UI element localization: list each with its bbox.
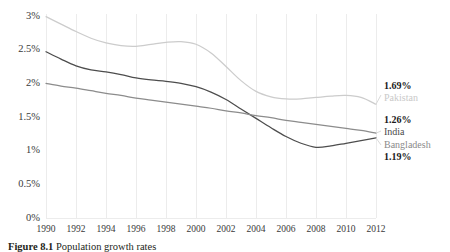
y-tick-label-0-5pct: 0.5% (18, 179, 40, 190)
figure-caption-title: Population growth rates (56, 241, 156, 252)
y-tick-label-1pct: 1% (26, 145, 40, 156)
series-line-india (46, 83, 376, 133)
x-tick-label-2012: 2012 (358, 225, 394, 235)
series-name-bangladesh: Bangladesh (384, 140, 431, 151)
line-chart-plot (0, 0, 450, 252)
y-tick-label-2-5pct: 2.5% (18, 44, 40, 55)
y-tick-label-2pct: 2% (26, 78, 40, 89)
end-value-bangladesh: 1.19% (384, 152, 412, 163)
figure-caption-number: Figure 8.1 (8, 241, 53, 252)
leader-lines-group (376, 95, 381, 145)
series-name-india: India (384, 127, 405, 138)
y-tick-label-0pct: 0% (26, 213, 40, 224)
end-value-pakistan: 1.69% (384, 81, 412, 92)
leader-line-pakistan (376, 95, 381, 104)
series-lines-group (46, 17, 376, 148)
figure-caption: Figure 8.1 Population growth rates (8, 241, 156, 252)
end-value-india: 1.26% (384, 115, 412, 126)
series-name-pakistan: Pakistan (384, 93, 418, 104)
leader-line-bangladesh (376, 138, 381, 145)
figure-population-growth-rates: 3%2.5%2%1.5%1%0.5%0% 1990199219941996199… (0, 0, 450, 252)
series-line-bangladesh (46, 52, 376, 148)
y-tick-label-1-5pct: 1.5% (18, 112, 40, 123)
y-tick-label-3pct: 3% (26, 11, 40, 22)
leader-line-india (376, 131, 381, 133)
gridlines-group (46, 14, 376, 218)
